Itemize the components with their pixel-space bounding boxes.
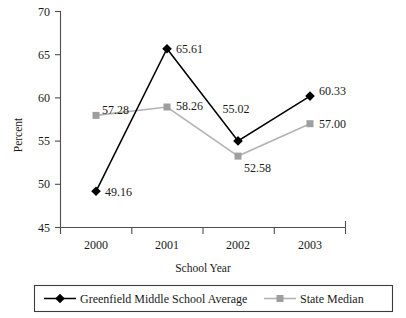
x-axis-tick-labels: 2000 2001 2002 2003	[84, 238, 322, 252]
x-tick-label-2000: 2000	[84, 238, 108, 252]
state-median-point-2002	[235, 153, 242, 160]
greenfield-point-2003	[305, 91, 315, 101]
state-median-point-2000	[93, 112, 100, 119]
legend-label-greenfield: Greenfield Middle School Average	[80, 292, 247, 306]
legend-label-state-median: State Median	[300, 292, 364, 306]
state-median-point-2003	[307, 120, 314, 127]
y-tick-label-50: 50	[38, 177, 50, 191]
chart-container: 70 65 60 55 50 45 2000 2001 2002 2003 Pe…	[0, 0, 406, 318]
data-label-state-2002: 52.58	[244, 161, 271, 175]
y-tick-label-45: 45	[38, 221, 50, 235]
y-axis-ticks	[55, 12, 61, 228]
x-tick-label-2002: 2002	[226, 238, 250, 252]
x-axis-title: School Year	[175, 262, 231, 274]
y-tick-label-65: 65	[38, 48, 50, 62]
data-label-state-2000: 57.28	[102, 103, 129, 117]
plot-axes	[61, 11, 346, 228]
y-tick-label-70: 70	[38, 5, 50, 19]
x-axis-ticks	[61, 228, 346, 235]
state-median-point-2001	[164, 104, 171, 111]
y-axis-title: Percent	[12, 117, 24, 152]
legend-square-marker-icon	[277, 295, 284, 302]
series-greenfield	[91, 44, 315, 196]
x-tick-label-2003: 2003	[298, 238, 322, 252]
x-tick-label-2001: 2001	[155, 238, 179, 252]
data-label-greenfield-2003: 60.33	[319, 84, 346, 98]
data-label-state-2001: 58.26	[176, 99, 203, 113]
data-label-greenfield-2000: 49.16	[105, 185, 132, 199]
chart-legend: Greenfield Middle School Average State M…	[35, 286, 393, 312]
y-axis-tick-labels: 70 65 60 55 50 45	[38, 5, 50, 235]
greenfield-point-2000	[91, 187, 101, 197]
y-tick-label-60: 60	[38, 91, 50, 105]
data-label-greenfield-2001: 65.61	[176, 42, 203, 56]
data-label-greenfield-2002: 55.02	[223, 102, 250, 116]
line-chart: 70 65 60 55 50 45 2000 2001 2002 2003 Pe…	[0, 0, 406, 318]
data-label-state-2003: 57.00	[319, 117, 346, 131]
greenfield-line	[96, 49, 310, 192]
y-tick-label-55: 55	[38, 134, 50, 148]
